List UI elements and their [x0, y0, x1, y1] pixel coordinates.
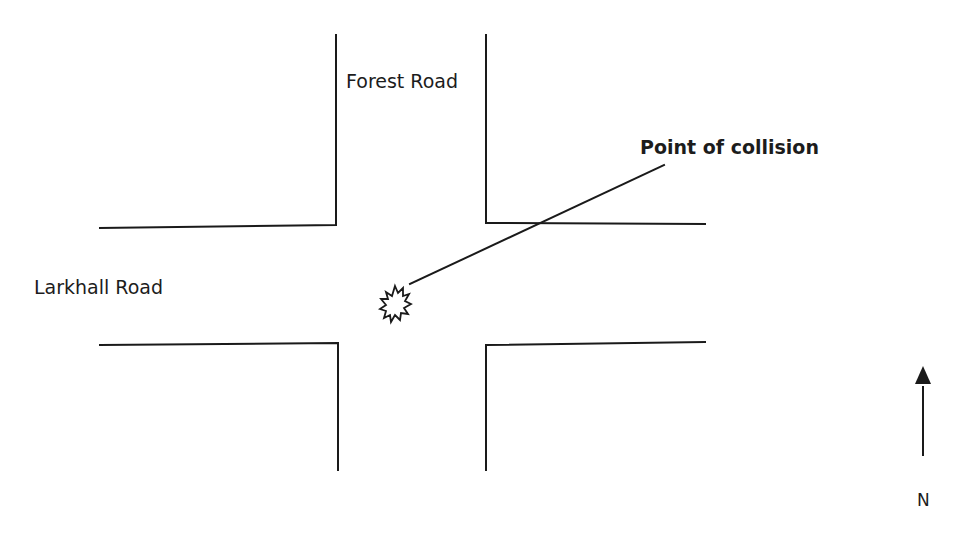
collision-starburst-icon	[380, 286, 411, 322]
collision-label: Point of collision	[640, 138, 819, 157]
kerb-north-east	[486, 35, 705, 224]
junction-diagram	[0, 0, 965, 539]
north-arrow-icon	[915, 366, 931, 456]
kerb-north-west	[100, 35, 336, 228]
forest-road-label: Forest Road	[346, 72, 458, 91]
larkhall-road-label: Larkhall Road	[34, 278, 163, 297]
north-label: N	[917, 492, 930, 509]
kerb-south-east	[486, 342, 705, 470]
kerb-south-west	[100, 343, 338, 470]
